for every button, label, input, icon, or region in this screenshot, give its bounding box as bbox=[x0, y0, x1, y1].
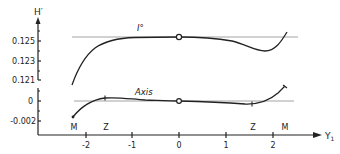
x-tick-label: -1 bbox=[128, 141, 136, 150]
marker-label-m-left: M bbox=[71, 123, 78, 132]
x-axis-title: Y1 bbox=[324, 131, 335, 142]
circle-marker-icon bbox=[177, 99, 182, 104]
chart: H′ 0.125 0.123 0.121 0 -0.002 Y1 -2 -1 0… bbox=[0, 0, 340, 154]
y-tick-label: 0.123 bbox=[12, 57, 35, 66]
circle-marker-icon bbox=[176, 34, 181, 39]
y-axis-arrow-icon bbox=[36, 17, 41, 24]
x-axis-arrow-icon bbox=[313, 132, 322, 138]
x-tick-label: 2 bbox=[270, 141, 275, 150]
y-tick-label: 0.125 bbox=[12, 37, 35, 46]
y-axis-title: H′ bbox=[34, 7, 43, 17]
marker-label-z-right: Z bbox=[250, 123, 256, 132]
dot-marker-icon bbox=[72, 116, 75, 119]
y-tick-label: 0 bbox=[28, 97, 33, 106]
y-tick-label: -0.002 bbox=[10, 117, 36, 126]
marker-label-z-left: Z bbox=[103, 123, 109, 132]
x-tick-label: -2 bbox=[82, 141, 90, 150]
y-tick-label: 0.121 bbox=[12, 76, 35, 85]
curve-label-i0: I° bbox=[137, 23, 144, 33]
x-axis bbox=[38, 132, 316, 138]
curve-label-axis: Axis bbox=[134, 87, 153, 97]
x-tick-label: 0 bbox=[176, 141, 181, 150]
marker-label-m-right: M bbox=[282, 123, 289, 132]
x-tick-label: 1 bbox=[223, 141, 228, 150]
y-axis bbox=[38, 22, 41, 135]
